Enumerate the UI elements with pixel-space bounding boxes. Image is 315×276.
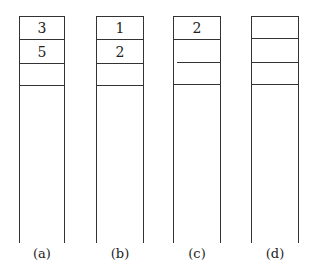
caption-b: (b) — [100, 246, 140, 261]
divider-line — [97, 63, 143, 64]
stack-column-b: 1 2 — [96, 16, 144, 243]
cell-value: 2 — [174, 21, 220, 35]
stack-column-a: 3 5 — [19, 16, 65, 243]
caption-d: (d) — [255, 246, 295, 261]
divider-line — [177, 62, 220, 63]
divider-line — [97, 39, 143, 40]
column-top-line — [97, 16, 143, 17]
divider-line — [97, 85, 143, 86]
divider-line — [20, 63, 64, 64]
column-top-line — [20, 16, 64, 17]
divider-line — [174, 84, 220, 85]
column-top-line — [174, 16, 220, 17]
cell-value: 3 — [20, 21, 64, 35]
cell-value: 5 — [20, 45, 64, 59]
caption-c: (c) — [177, 246, 217, 261]
divider-line — [174, 39, 220, 40]
stack-column-d — [251, 16, 299, 243]
caption-a: (a) — [22, 246, 62, 261]
cell-value: 1 — [97, 21, 143, 35]
column-top-line — [252, 16, 298, 17]
divider-line — [20, 85, 64, 86]
divider-line — [252, 62, 298, 63]
stack-column-c: 2 — [173, 16, 221, 243]
divider-line — [252, 84, 298, 85]
divider-line — [252, 38, 298, 39]
divider-line — [20, 39, 64, 40]
cell-value: 2 — [97, 45, 143, 59]
